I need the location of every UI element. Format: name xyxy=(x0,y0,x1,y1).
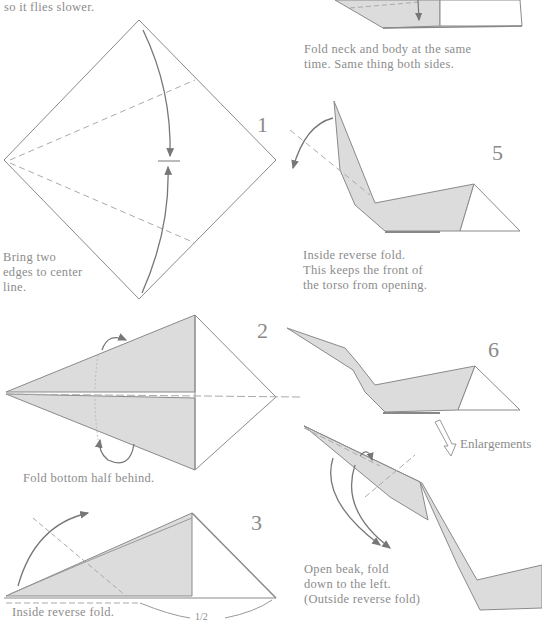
step-number-1: 1 xyxy=(257,112,268,138)
step-number-5: 5 xyxy=(492,140,503,166)
step4-caption-line: Fold neck and body at the same xyxy=(304,42,471,57)
step2-caption: Fold bottom half behind. xyxy=(23,471,155,486)
step-number-6: 6 xyxy=(488,337,499,363)
step3-caption: Inside reverse fold. xyxy=(12,605,114,620)
step2-diagram xyxy=(6,315,300,470)
enlargements-label: Enlargements xyxy=(460,436,531,452)
step5-caption: Inside reverse fold. This keeps the fron… xyxy=(303,248,427,293)
step6-diagram xyxy=(287,328,520,413)
step7-caption-line: (Outside reverse fold) xyxy=(304,592,420,607)
step1-caption: Bring two edges to center line. xyxy=(3,250,82,295)
half-measure-label: 1/2 xyxy=(195,611,208,621)
step4-caption-line: time. Same thing both sides. xyxy=(304,57,471,72)
step1-caption-line: Bring two xyxy=(3,250,82,265)
step-number-3: 3 xyxy=(251,510,262,536)
enlargement-arrow xyxy=(435,420,456,456)
step4-diagram xyxy=(335,0,522,28)
step5-caption-line: This keeps the front of xyxy=(303,263,427,278)
origami-diagrams xyxy=(0,0,542,621)
step-number-2: 2 xyxy=(257,318,268,344)
intro-caption-tail: so it flies slower. xyxy=(4,0,94,15)
step4-caption: Fold neck and body at the same time. Sam… xyxy=(304,42,471,72)
step5-caption-line: Inside reverse fold. xyxy=(303,248,427,263)
step1-caption-line: line. xyxy=(3,280,82,295)
step7-caption-line: Open beak, fold xyxy=(304,562,420,577)
step5-diagram xyxy=(290,101,520,232)
step1-caption-line: edges to center xyxy=(3,265,82,280)
step3-diagram xyxy=(4,513,276,618)
step5-caption-line: the torso from opening. xyxy=(303,278,427,293)
step7-caption: Open beak, fold down to the left. (Outsi… xyxy=(304,562,420,607)
step7-caption-line: down to the left. xyxy=(304,577,420,592)
